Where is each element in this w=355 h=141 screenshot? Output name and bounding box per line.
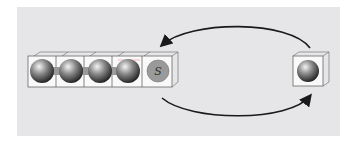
particle-1 [30, 59, 54, 83]
site-s-label: S [154, 65, 162, 78]
particle-2 [59, 59, 83, 83]
cell-chain: S [28, 52, 178, 87]
bottom-arrow [162, 96, 310, 116]
isolated-cell [293, 52, 329, 86]
particle-4 [116, 59, 140, 83]
diagram-canvas: S [0, 0, 355, 141]
top-arrow [162, 27, 310, 48]
particle-3 [88, 59, 112, 83]
isolated-particle [297, 60, 319, 82]
